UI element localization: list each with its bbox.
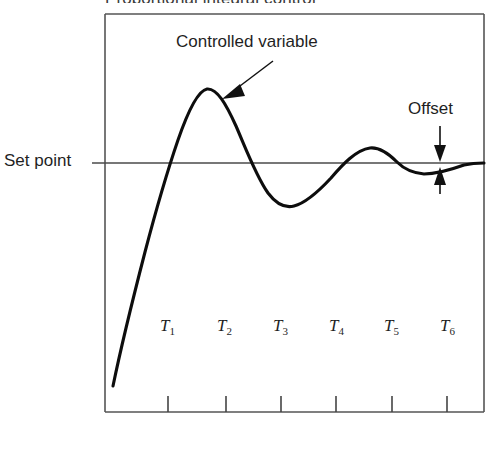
x-tick-label-t5: T5 [384,316,399,337]
x-tick-label-t4-sub: 4 [338,325,344,337]
x-tick-label-t6: T6 [440,316,455,337]
annotation-arrow-offset-down [434,126,446,162]
x-tick-label-t2: T2 [217,316,232,337]
plot-area [0,0,497,449]
x-tick-label-t2-sub: 2 [226,325,232,337]
x-tick-label-t3: T3 [273,316,288,337]
controlled-variable-curve [113,89,484,386]
x-tick-label-t6-sub: 6 [449,325,455,337]
x-tick-label-t1: T1 [160,316,175,337]
x-axis-ticks [168,396,447,412]
x-tick-label-t5-sub: 5 [393,325,399,337]
x-tick-label-t3-sub: 3 [282,325,288,337]
axis-box [105,14,484,412]
figure-container: Proportional integral control Set point … [0,0,497,449]
x-tick-label-t4: T4 [329,316,344,337]
annotation-arrow-controlled-variable [222,61,273,99]
x-tick-label-t1-sub: 1 [169,325,175,337]
